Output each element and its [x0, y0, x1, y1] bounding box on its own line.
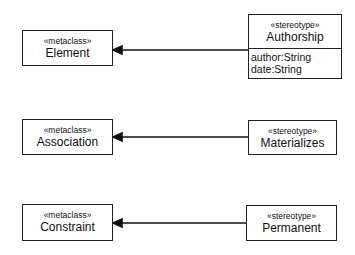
arrowhead-icon — [113, 133, 122, 141]
stereotype-materializes[interactable]: «stereotype» Materializes — [248, 120, 337, 155]
stereotype-label: «metaclass» — [23, 125, 112, 135]
arrowhead-icon — [113, 219, 122, 227]
metaclass-element[interactable]: «metaclass» Element — [22, 30, 113, 66]
stereotype-label: «metaclass» — [23, 210, 112, 220]
class-name: Authorship — [249, 30, 341, 44]
attribute: date:String — [251, 63, 339, 75]
class-name: Permanent — [247, 221, 336, 235]
metaclass-association[interactable]: «metaclass» Association — [22, 119, 113, 155]
metaclass-constraint[interactable]: «metaclass» Constraint — [22, 204, 113, 241]
attribute: author:String — [251, 51, 339, 63]
stereotype-label: «metaclass» — [23, 36, 112, 46]
attribute-compartment: author:String date:String — [249, 48, 341, 76]
class-name: Element — [23, 46, 112, 60]
stereotype-label: «stereotype» — [249, 126, 336, 136]
class-name: Constraint — [23, 220, 112, 234]
class-name: Association — [23, 135, 112, 149]
arrowhead-icon — [113, 46, 122, 54]
stereotype-authorship[interactable]: «stereotype» Authorship author:String da… — [248, 14, 342, 79]
stereotype-label: «stereotype» — [249, 20, 341, 30]
stereotype-label: «stereotype» — [247, 211, 336, 221]
stereotype-permanent[interactable]: «stereotype» Permanent — [246, 205, 337, 241]
class-name: Materializes — [249, 136, 336, 150]
